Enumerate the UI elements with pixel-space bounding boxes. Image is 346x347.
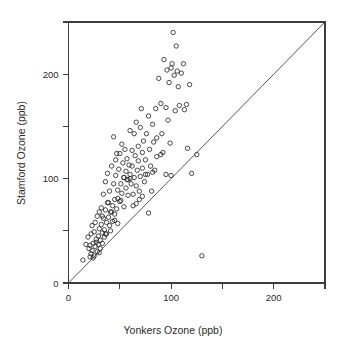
data-point xyxy=(159,101,163,105)
data-point xyxy=(130,148,134,152)
data-point xyxy=(122,205,126,209)
scatter-plot-figure: 01002000100200 Yonkers Ozone (ppb) Stamf… xyxy=(0,0,346,347)
data-point xyxy=(133,153,137,157)
data-point xyxy=(176,85,180,89)
data-point xyxy=(136,159,140,163)
data-point xyxy=(124,186,128,190)
data-point xyxy=(162,57,166,61)
data-point xyxy=(115,207,119,211)
data-point xyxy=(105,171,109,175)
data-point xyxy=(200,254,204,258)
data-point xyxy=(120,191,124,195)
data-point xyxy=(144,132,148,136)
data-point xyxy=(146,211,150,215)
data-point xyxy=(120,142,124,146)
data-point xyxy=(169,66,173,70)
data-point xyxy=(138,125,142,129)
data-point xyxy=(138,174,142,178)
data-point xyxy=(101,192,105,196)
data-point xyxy=(146,114,150,118)
data-point xyxy=(160,132,164,136)
data-point xyxy=(132,132,136,136)
data-point xyxy=(108,229,112,233)
data-point xyxy=(182,108,186,112)
data-point xyxy=(119,182,123,186)
data-point xyxy=(93,220,97,224)
x-axis-title: Yonkers Ozone (ppb) xyxy=(124,324,223,336)
data-point xyxy=(128,172,132,176)
data-point xyxy=(110,204,114,208)
data-point xyxy=(99,222,103,226)
data-point xyxy=(81,258,85,262)
data-point xyxy=(107,223,111,227)
data-point xyxy=(140,150,144,154)
data-point xyxy=(149,189,153,193)
data-point xyxy=(142,180,146,184)
data-point xyxy=(106,215,110,219)
data-point xyxy=(126,193,130,197)
data-point xyxy=(141,139,145,143)
data-point xyxy=(151,140,155,144)
y-tick-label: 0 xyxy=(53,278,58,289)
data-point xyxy=(134,120,138,124)
data-point xyxy=(107,189,111,193)
data-point xyxy=(137,189,141,193)
data-point xyxy=(109,164,113,168)
data-point xyxy=(117,167,121,171)
data-point xyxy=(116,188,120,192)
data-point xyxy=(157,76,161,80)
data-point xyxy=(184,102,188,106)
data-point xyxy=(135,168,139,172)
identity-reference-line xyxy=(69,22,326,283)
data-point xyxy=(114,158,118,162)
data-point xyxy=(121,161,125,165)
x-tick-label: 0 xyxy=(66,292,71,303)
data-point xyxy=(177,103,181,107)
data-point xyxy=(118,151,122,155)
data-point xyxy=(155,136,159,140)
x-tick-label: 200 xyxy=(266,292,282,303)
tick-labels-group: 01002000100200 xyxy=(43,69,282,303)
data-point xyxy=(140,166,144,170)
data-point xyxy=(154,106,158,110)
data-point xyxy=(164,172,168,176)
data-points-group xyxy=(81,30,204,262)
data-point xyxy=(171,30,175,34)
data-point xyxy=(181,62,185,66)
data-point xyxy=(123,147,127,151)
data-point xyxy=(95,214,99,218)
data-point xyxy=(103,180,107,184)
data-point xyxy=(139,106,143,110)
data-point xyxy=(189,171,193,175)
data-point xyxy=(129,182,133,186)
data-point xyxy=(131,192,135,196)
data-point xyxy=(148,164,152,168)
data-point xyxy=(111,182,115,186)
data-point xyxy=(97,227,101,231)
data-point xyxy=(185,146,189,150)
data-point xyxy=(140,194,144,198)
data-point xyxy=(143,158,147,162)
data-point xyxy=(147,147,151,151)
data-point xyxy=(172,73,176,77)
plot-canvas: 01002000100200 Yonkers Ozone (ppb) Stamf… xyxy=(0,0,346,347)
data-point xyxy=(111,135,115,139)
data-point xyxy=(170,62,174,66)
data-point xyxy=(166,118,170,122)
data-point xyxy=(187,82,191,86)
y-tick-label: 200 xyxy=(43,69,59,80)
data-point xyxy=(103,208,107,212)
identity-line xyxy=(69,22,326,283)
y-axis-title: Stamford Ozone (ppb) xyxy=(15,101,27,205)
data-point xyxy=(167,80,171,84)
data-point xyxy=(124,169,128,173)
data-point xyxy=(164,105,168,109)
data-point xyxy=(136,144,140,148)
data-point xyxy=(128,128,132,132)
data-point xyxy=(99,206,103,210)
data-point xyxy=(114,173,118,177)
y-tick-label: 100 xyxy=(43,173,59,184)
data-point xyxy=(134,184,138,188)
data-point xyxy=(125,157,129,161)
x-tick-label: 100 xyxy=(163,292,179,303)
